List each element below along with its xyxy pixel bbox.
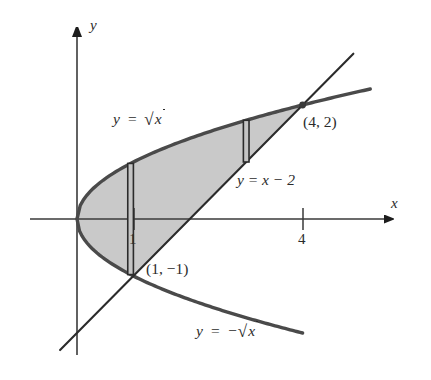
label-upper-curve: y=√x (113, 110, 165, 127)
label-lower-curve-eq: = (210, 322, 220, 339)
label-point-4-2: (4, 2) (303, 114, 337, 130)
radicand: x (248, 322, 255, 339)
intersection-point-dot (299, 102, 306, 109)
radical-sqrt-neg: √x (238, 322, 258, 339)
minus-sign: − (227, 322, 237, 339)
axis-label-y: y (90, 18, 97, 33)
left-strip-rect (128, 163, 134, 274)
radicand: x (155, 110, 162, 127)
label-line: y = x − 2 (237, 172, 295, 188)
label-upper-curve-lhs: y (113, 110, 120, 127)
radical-sqrt: √x (144, 110, 164, 127)
label-upper-curve-eq: = (127, 110, 137, 127)
math-figure: y=√x y = x − 2 y=−√x (4, 2) (1, −1) y x … (0, 0, 431, 380)
right-strip-rect (243, 120, 249, 162)
x-tick-label-4: 4 (298, 232, 306, 247)
label-lower-curve-lhs: y (196, 322, 203, 339)
x-tick-label-1: 1 (129, 232, 137, 247)
label-point-1-minus-1: (1, −1) (146, 261, 188, 277)
shaded-region (77, 105, 303, 276)
label-lower-curve: y=−√x (196, 322, 258, 339)
axis-label-x: x (391, 196, 398, 211)
